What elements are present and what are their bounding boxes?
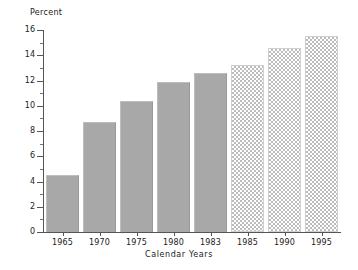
x-tick xyxy=(63,233,64,236)
x-tick-label: 1985 xyxy=(237,238,258,247)
x-tick xyxy=(174,233,175,236)
bar-1990 xyxy=(268,48,301,232)
y-tick-minor xyxy=(40,93,43,94)
bar-1983 xyxy=(194,73,227,232)
x-tick xyxy=(211,233,212,236)
x-tick xyxy=(100,233,101,236)
y-tick-label: 8 xyxy=(2,126,35,135)
y-tick-minor xyxy=(40,68,43,69)
x-axis-line xyxy=(43,232,341,233)
y-axis-title: Percent xyxy=(30,8,62,17)
x-tick-label: 1970 xyxy=(89,238,110,247)
bar-1985 xyxy=(231,65,264,232)
x-tick xyxy=(285,233,286,236)
y-tick xyxy=(37,182,43,183)
y-tick-minor xyxy=(40,118,43,119)
x-axis-title: Calendar Years xyxy=(0,250,358,259)
y-tick xyxy=(37,207,43,208)
bar-1965 xyxy=(46,175,79,232)
y-tick-minor xyxy=(40,194,43,195)
x-tick-label: 1995 xyxy=(311,238,332,247)
y-tick xyxy=(37,106,43,107)
y-tick-label: 0 xyxy=(2,227,35,236)
x-tick-label: 1980 xyxy=(163,238,184,247)
bar-1980 xyxy=(157,82,190,232)
chart-figure: Percent 0246810121416 196519701975198019… xyxy=(0,0,358,270)
y-tick-label: 10 xyxy=(2,101,35,110)
bar-1970 xyxy=(83,122,116,232)
x-tick-label: 1975 xyxy=(126,238,147,247)
y-tick-label: 2 xyxy=(2,202,35,211)
y-tick-label: 16 xyxy=(2,25,35,34)
bar-1975 xyxy=(120,101,153,232)
x-tick xyxy=(322,233,323,236)
y-tick xyxy=(37,232,43,233)
y-tick-minor xyxy=(40,219,43,220)
x-tick xyxy=(248,233,249,236)
y-tick-minor xyxy=(40,144,43,145)
y-tick-minor xyxy=(40,43,43,44)
x-tick-label: 1965 xyxy=(52,238,73,247)
y-tick xyxy=(37,156,43,157)
y-tick xyxy=(37,81,43,82)
y-tick-minor xyxy=(40,169,43,170)
x-tick-label: 1983 xyxy=(200,238,221,247)
x-tick-label: 1990 xyxy=(274,238,295,247)
y-tick-label: 14 xyxy=(2,50,35,59)
y-tick-label: 6 xyxy=(2,151,35,160)
y-tick-label: 4 xyxy=(2,177,35,186)
y-tick xyxy=(37,55,43,56)
y-tick xyxy=(37,30,43,31)
bar-1995 xyxy=(305,36,338,232)
x-tick xyxy=(137,233,138,236)
y-tick xyxy=(37,131,43,132)
plot-area xyxy=(44,30,340,232)
y-tick-label: 12 xyxy=(2,76,35,85)
